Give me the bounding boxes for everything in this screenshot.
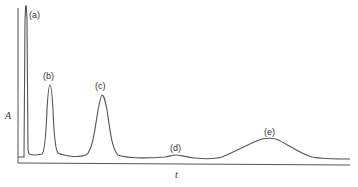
peak-label-b: (b) (43, 71, 54, 81)
chromatogram-chart: A t (a) (b) (c) (d) (e) (0, 0, 358, 187)
y-axis-label: A (4, 110, 12, 121)
x-axis-label: t (175, 169, 178, 180)
peak-label-e: (e) (264, 127, 275, 137)
chromatogram-trace (18, 6, 350, 159)
peak-label-c: (c) (95, 81, 106, 91)
peak-label-d: (d) (170, 143, 181, 153)
x-axis (18, 163, 350, 165)
peak-label-a: (a) (29, 10, 40, 20)
